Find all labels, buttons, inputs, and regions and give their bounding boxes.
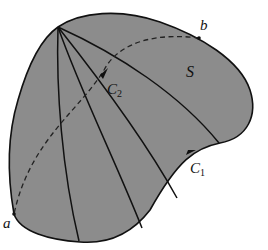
point-b [197, 36, 201, 40]
label-b: b [200, 17, 208, 33]
label-c2-sub: 2 [117, 88, 122, 99]
label-a: a [3, 215, 11, 231]
label-c1: C1 [190, 160, 205, 178]
label-c1-sub: 1 [200, 167, 205, 178]
point-a [12, 212, 16, 216]
label-s: S [186, 63, 194, 80]
region-s [9, 13, 252, 242]
surface-diagram: b a S C2 C1 [0, 0, 268, 250]
